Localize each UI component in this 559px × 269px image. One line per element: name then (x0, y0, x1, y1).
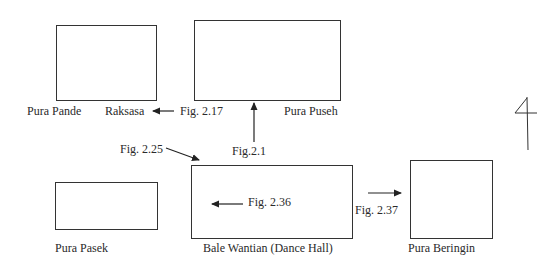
arrow-diagonal-icon (166, 148, 199, 160)
building-box-pura-puseh (194, 20, 341, 101)
building-box-pura-beringin (410, 160, 493, 239)
label-pura-beringin: Pura Beringin (408, 241, 475, 255)
fig-ref-2-25: Fig. 2.25 (120, 142, 163, 156)
label-pura-pande: Pura Pande (27, 104, 81, 118)
label-bale-wantian: Bale Wantian (Dance Hall) (203, 241, 333, 255)
label-pura-pasek: Pura Pasek (55, 241, 108, 255)
building-box-pura-pasek (55, 182, 158, 230)
label-raksasa: Raksasa (105, 104, 144, 118)
fig-ref-2-1: Fig.2.1 (232, 144, 266, 158)
fig-ref-2-36: Fig. 2.36 (248, 195, 291, 209)
site-plan-diagram: Pura Pande Raksasa Fig. 2.17 Pura Puseh … (0, 0, 559, 269)
label-pura-puseh: Pura Puseh (284, 104, 338, 118)
fig-ref-2-37: Fig. 2.37 (355, 203, 398, 217)
handwritten-number-icon (515, 97, 537, 150)
building-box-raksasa (56, 25, 157, 101)
fig-ref-2-17: Fig. 2.17 (180, 104, 223, 118)
